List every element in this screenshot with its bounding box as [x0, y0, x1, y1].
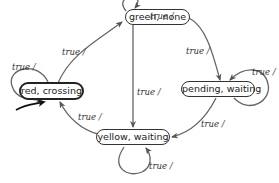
label-green-yellow: true /	[137, 87, 161, 97]
label-yellow-red: true /	[78, 112, 102, 122]
state-diagram: green, none red, crossing pending, waiti…	[0, 0, 279, 183]
label-green-self: true /	[150, 11, 174, 21]
label-pending-yellow: true /	[201, 119, 225, 129]
state-red-crossing: red, crossing	[19, 82, 84, 100]
label-pending-self: true /	[252, 67, 276, 77]
edge-pending-yellow	[172, 98, 216, 137]
state-yellow-waiting: yellow, waiting	[96, 129, 170, 145]
label-yellow-self: true /	[149, 161, 173, 171]
state-pending-waiting: pending, waiting	[181, 81, 255, 97]
label-red-self: true /	[12, 62, 36, 72]
initial-arrow	[16, 102, 44, 110]
label-red-green: true /	[62, 47, 86, 57]
label-green-pending: true /	[186, 46, 210, 56]
edge-yellow-self	[119, 147, 150, 174]
